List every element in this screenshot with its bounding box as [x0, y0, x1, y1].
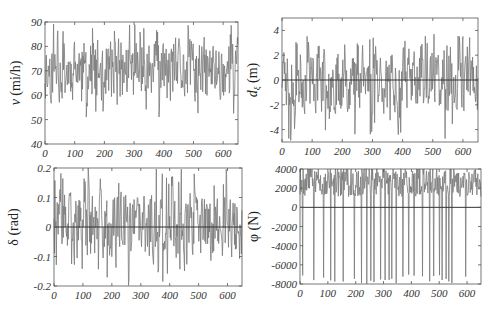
chart-force: φ (N) 0100200300400500600-8000-6000-4000… [0, 0, 496, 313]
phi-plot: 0100200300400500600-8000-6000-4000-20000… [0, 0, 496, 313]
y-tick-label: 2000 [275, 182, 298, 194]
x-tick-label: 0 [297, 287, 303, 299]
y-tick-label: 4000 [275, 163, 298, 175]
y-tick-label: -8000 [271, 278, 297, 290]
x-tick-label: 600 [459, 287, 476, 299]
phi-series-line [300, 169, 481, 284]
x-tick-label: 500 [431, 287, 448, 299]
phi-y-axis-label: φ (N) [246, 211, 262, 242]
x-tick-label: 100 [320, 287, 337, 299]
x-tick-label: 400 [403, 287, 420, 299]
y-tick-label: -4000 [271, 240, 297, 252]
y-tick-label: -2000 [271, 221, 297, 233]
x-tick-label: 300 [374, 287, 392, 299]
y-tick-label: 0 [292, 201, 298, 213]
x-tick-label: 200 [347, 287, 364, 299]
y-tick-label: -6000 [271, 259, 297, 271]
